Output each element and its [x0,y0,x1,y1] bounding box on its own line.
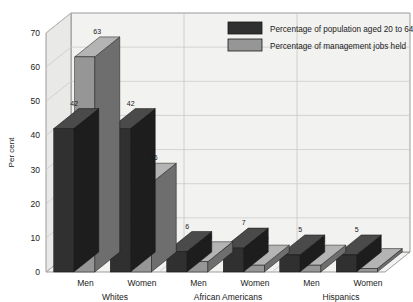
bar-value-label: 42 [127,100,135,107]
x-axis-category-label: Women [353,278,382,288]
y-axis-tick-label: 60 [31,62,41,72]
bar-value-label: 6 [185,223,189,230]
y-axis-tick-label: 70 [31,28,41,38]
x-axis-category-label: Men [190,278,207,288]
bar-value-label: 42 [70,100,78,107]
bar-value-label: 5 [355,226,359,233]
legend-swatch [228,39,262,51]
chart-x-axis: MenWomenMenWomenMenWomenWhitesAfrican Am… [77,278,383,302]
x-axis-group-label: Hispanics [323,292,360,302]
chart-y-axis-title: Per cent [7,137,16,168]
y-axis-tick-label: 10 [31,233,41,243]
bar-value-label: 3 [208,233,212,240]
bar-value-label: 2 [321,236,325,243]
bar-value-label: 5 [298,226,302,233]
y-axis-title: Per cent [7,137,16,168]
bar-value-label: 2 [265,236,269,243]
bar-3d [54,109,99,272]
legend-label: Percentage of management jobs held [270,42,407,51]
y-axis-tick-label: 40 [31,130,41,140]
legend-label: Percentage of population aged 20 to 64 [270,25,413,34]
y-axis-tick-label: 20 [31,199,41,209]
bar-value-label: 63 [93,28,101,35]
x-axis-category-label: Women [240,278,269,288]
bar-value-label: 7 [242,219,246,226]
x-axis-group-label: Whites [102,292,128,302]
x-axis-category-label: Men [77,278,94,288]
bar-value-label: 26 [150,154,158,161]
y-axis-tick-label: 0 [35,267,40,277]
y-axis-tick-label: 30 [31,165,41,175]
chart-container: 1525273626426342 010203040506070 MenWome… [0,0,413,302]
x-axis-group-label: African Americans [194,292,263,302]
y-axis-tick-label: 50 [31,96,41,106]
legend-swatch [228,22,262,34]
chart-y-axis: 010203040506070 [31,28,41,277]
x-axis-category-label: Women [127,278,156,288]
x-axis-category-label: Men [303,278,320,288]
bar-chart-3d: 1525273626426342 010203040506070 MenWome… [0,0,413,302]
bar-value-label: 1 [378,240,382,247]
